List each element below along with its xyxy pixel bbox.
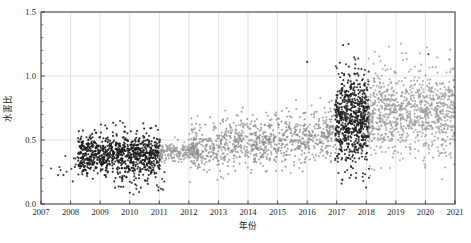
x-axis-tick-labels: 2007200820092010201120122013201420152016…: [32, 207, 463, 217]
y-tick-label: 0.5: [25, 135, 36, 145]
x-tick-label: 2018: [358, 207, 375, 217]
x-tick-label: 2021: [446, 207, 463, 217]
x-tick-label: 2011: [151, 207, 168, 217]
x-tick-label: 2019: [387, 207, 404, 217]
y-axis-title: 水害比: [2, 95, 13, 122]
y-tick-label: 1.5: [25, 7, 36, 17]
x-tick-label: 2020: [417, 207, 434, 217]
x-tick-label: 2010: [121, 207, 138, 217]
x-tick-label: 2017: [328, 207, 346, 217]
x-tick-label: 2009: [92, 207, 109, 217]
x-tick-label: 2013: [210, 207, 227, 217]
scatter-chart: 2007200820092010201120122013201420152016…: [0, 0, 471, 243]
y-tick-label: 0.0: [25, 199, 36, 209]
x-tick-label: 2012: [180, 207, 197, 217]
x-tick-label: 2015: [269, 207, 286, 217]
x-axis-title: 年份: [239, 220, 257, 231]
chart-canvas: 2007200820092010201120122013201420152016…: [0, 0, 471, 243]
y-tick-label: 1.0: [25, 71, 36, 81]
x-tick-label: 2016: [299, 207, 317, 217]
x-tick-label: 2008: [62, 207, 79, 217]
x-tick-label: 2014: [239, 207, 257, 217]
